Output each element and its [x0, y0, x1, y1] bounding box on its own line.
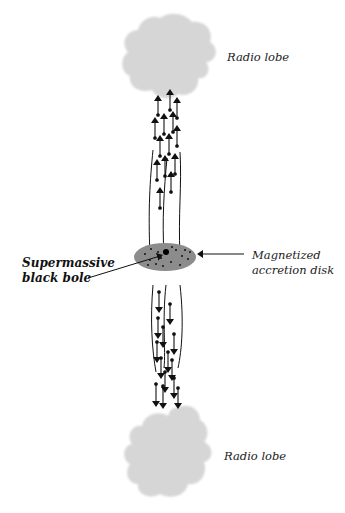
- disk-label-line1: Magnetized: [252, 248, 334, 263]
- bottom-lobe-label: Radio lobe: [224, 449, 286, 464]
- black-hole-dot: [163, 249, 169, 255]
- disk-label-line2: accretion disk: [252, 263, 334, 278]
- top-lobe-label: Radio lobe: [227, 50, 289, 65]
- bottom-radio-lobe: [124, 406, 211, 497]
- disk-label: Magnetized accretion disk: [252, 248, 334, 278]
- lower-field-lines: [152, 285, 183, 372]
- top-radio-lobe: [122, 14, 216, 99]
- upward-jet-arrows: [154, 92, 179, 209]
- black-hole-label-line2: black bole: [22, 271, 115, 286]
- black-hole-label: Supermassive black bole: [22, 256, 115, 286]
- black-hole-label-line1: Supermassive: [22, 256, 115, 271]
- accretion-disk: [134, 243, 196, 271]
- downward-jet-arrows: [155, 291, 180, 406]
